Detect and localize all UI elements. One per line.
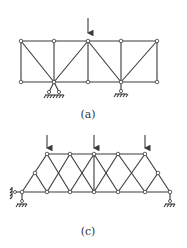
nodes-c	[20, 152, 172, 194]
truss-a	[19, 18, 159, 98]
truss-diagrams	[0, 0, 187, 248]
caption-a: (a)	[68, 108, 108, 121]
truss-c	[10, 135, 175, 207]
roller-support-c-right	[164, 192, 175, 207]
pin-support-c-left	[10, 187, 27, 207]
pin-support-a	[44, 82, 64, 98]
caption-c: (c)	[68, 225, 108, 238]
roller-support-a	[114, 82, 128, 97]
nodes-a	[19, 39, 159, 84]
